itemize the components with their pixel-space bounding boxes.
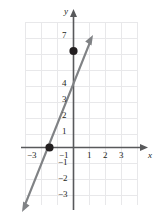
- y-tick-label-2: 2: [62, 111, 67, 120]
- x-tick-label-2: 2: [103, 151, 108, 160]
- x-tick-label-1: 1: [87, 151, 92, 160]
- y-tick-label--2: −2: [58, 174, 68, 183]
- graph-figure: −3 −1 1 2 3 7 4 3 2 1 −1 −2 −3 y x: [0, 0, 160, 214]
- y-tick-label-7: 7: [62, 31, 67, 40]
- x-tick-label-3: 3: [119, 151, 124, 160]
- data-point-y-intercept: [69, 47, 77, 55]
- y-tick-label-4: 4: [62, 79, 67, 88]
- x-axis-label: x: [148, 151, 152, 160]
- x-axis: [21, 144, 148, 151]
- coordinate-plane-svg: [0, 0, 160, 214]
- grid-lines-vertical: [26, 22, 138, 205]
- y-tick-label-1: 1: [62, 127, 67, 136]
- data-point-x-intercept: [45, 143, 53, 151]
- y-tick-label-3: 3: [62, 95, 67, 104]
- y-axis-label: y: [64, 7, 68, 16]
- x-tick-label--3: −3: [27, 151, 37, 160]
- y-tick-label--1: −1: [58, 158, 68, 167]
- y-tick-label--3: −3: [58, 190, 68, 199]
